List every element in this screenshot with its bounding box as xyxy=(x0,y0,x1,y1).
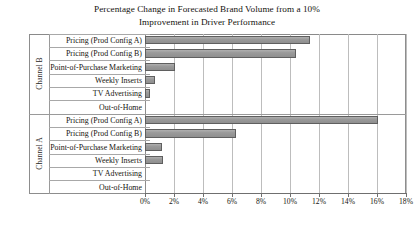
row-tick xyxy=(145,47,150,48)
category-label: Weekly Inserts xyxy=(49,154,145,167)
category-label: Point-of-Purchase Marketing xyxy=(49,140,145,153)
x-tick-label: 18% xyxy=(399,197,413,206)
x-tick-label: 10% xyxy=(283,197,297,206)
bar-channel-b-2 xyxy=(145,63,175,71)
row-tick xyxy=(145,74,150,75)
row-tick xyxy=(145,180,150,181)
row-tick xyxy=(145,100,150,101)
x-tick-label: 16% xyxy=(370,197,384,206)
category-label: Pricing (Prod Config B) xyxy=(49,127,145,140)
group-label-channel-b: Channel B xyxy=(29,34,49,114)
chart-page: Percentage Change in Forecasted Brand Vo… xyxy=(0,0,414,225)
row-tick xyxy=(145,140,150,141)
row-tick xyxy=(145,154,150,155)
category-label: TV Advertising xyxy=(49,167,145,180)
category-label: Out-of-Home xyxy=(49,180,145,193)
category-label: Point-of-Purchase Marketing xyxy=(49,60,145,73)
chart-title: Percentage Change in Forecasted Brand Vo… xyxy=(0,3,414,29)
chart-title-line-1: Percentage Change in Forecasted Brand Vo… xyxy=(0,3,414,16)
x-tick-label: 6% xyxy=(227,197,237,206)
x-tick-label: 2% xyxy=(169,197,179,206)
group-label-channel-a: Channel A xyxy=(29,114,49,194)
category-label: TV Advertising xyxy=(49,87,145,100)
x-tick-label: 0% xyxy=(140,197,150,206)
x-tick-label: 12% xyxy=(312,197,326,206)
group-separator xyxy=(29,114,406,115)
bar-channel-b-3 xyxy=(145,76,155,84)
row-tick xyxy=(145,87,150,88)
category-label: Weekly Inserts xyxy=(49,74,145,87)
bar-channel-a-3 xyxy=(145,156,163,164)
x-tick-label: 14% xyxy=(341,197,355,206)
row-tick xyxy=(145,167,150,168)
row-tick xyxy=(145,60,150,61)
chart-title-line-2: Improvement in Driver Performance xyxy=(0,16,414,29)
row-tick xyxy=(145,34,150,35)
bar-channel-b-1 xyxy=(145,49,296,57)
group-label-text: Channel B xyxy=(35,57,44,89)
bar-channel-a-1 xyxy=(145,129,236,137)
group-label-text: Channel A xyxy=(35,137,44,169)
row-tick xyxy=(145,127,150,128)
bar-channel-b-0 xyxy=(145,36,310,44)
x-tick-label: 4% xyxy=(198,197,208,206)
x-tick-label: 8% xyxy=(256,197,266,206)
bar-channel-a-2 xyxy=(145,143,162,151)
x-axis-line xyxy=(145,193,406,194)
bar-channel-b-4 xyxy=(145,89,150,97)
category-label: Pricing (Prod Config B) xyxy=(49,47,145,60)
category-label: Pricing (Prod Config A) xyxy=(49,114,145,127)
category-label: Pricing (Prod Config A) xyxy=(49,34,145,47)
bar-channel-a-0 xyxy=(145,116,378,124)
category-label: Out-of-Home xyxy=(49,100,145,113)
gridline-18% xyxy=(406,34,407,194)
